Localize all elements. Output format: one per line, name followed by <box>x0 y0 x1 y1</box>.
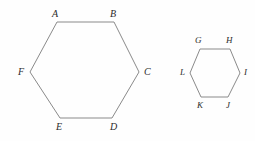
vertex-label-c: C <box>144 67 151 77</box>
figure-canvas: A B C D E F G H I J K L <box>0 0 255 141</box>
vertex-label-l: L <box>180 68 185 77</box>
hexagon-diagram <box>0 0 255 141</box>
vertex-label-k: K <box>197 101 203 110</box>
vertex-label-e: E <box>56 122 62 132</box>
vertex-label-a: A <box>52 9 58 19</box>
vertex-label-h: H <box>226 36 233 45</box>
vertex-label-b: B <box>110 9 116 19</box>
vertex-label-j: J <box>226 101 230 110</box>
large-hexagon-outline <box>30 22 139 118</box>
small-hexagon-outline <box>190 49 240 97</box>
vertex-label-d: D <box>110 122 117 132</box>
vertex-label-i: I <box>244 68 247 77</box>
vertex-label-g: G <box>195 36 202 45</box>
vertex-label-f: F <box>18 67 24 77</box>
